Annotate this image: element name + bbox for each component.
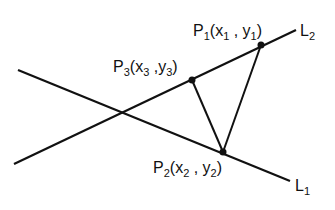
geometry-diagram: P1(x1 , y1) L2 P3(x3 ,y3) P2(x2 , y2) L1 [0,0,335,210]
label-p1: P1(x1 , y1) [193,22,262,42]
label-l1: L1 [295,177,310,197]
segment-p3-p2 [192,80,223,152]
label-p2: P2(x2 , y2) [153,159,222,179]
point-p2 [220,149,227,156]
point-p1 [258,42,265,49]
label-l2: L2 [300,22,315,42]
point-p3 [189,77,196,84]
line-l2 [14,30,296,164]
label-p3: P3(x3 ,y3) [113,58,178,78]
